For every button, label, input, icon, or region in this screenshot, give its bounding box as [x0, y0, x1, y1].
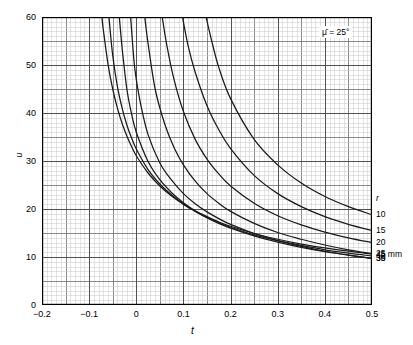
x-tick-label: 0.5 — [355, 310, 389, 319]
y-tick-label: 40 — [10, 109, 36, 118]
x-tick-label: 0.2 — [214, 310, 248, 319]
legend-entry: 10 — [376, 210, 385, 219]
y-tick-label: 50 — [10, 61, 36, 70]
y-axis-label: u — [14, 152, 24, 157]
plot-area — [42, 17, 372, 305]
legend-entry: 15 — [376, 226, 385, 235]
mu-annotation: μ̄ = 25° — [319, 26, 352, 38]
y-tick-label: 10 — [10, 253, 36, 262]
x-tick-label: −0.1 — [72, 310, 106, 319]
curve-20 — [162, 17, 372, 243]
curve-10 — [206, 17, 372, 215]
x-tick-label: −0.2 — [25, 310, 59, 319]
curve-35 — [119, 17, 372, 258]
y-tick-label: 60 — [10, 13, 36, 22]
x-axis-label: t — [191, 325, 194, 336]
legend-entry: 25 — [376, 249, 385, 258]
x-tick-label: 0.4 — [308, 310, 342, 319]
x-tick-label: 0.1 — [166, 310, 200, 319]
x-tick-label: 0.3 — [261, 310, 295, 319]
x-tick-label: 0 — [119, 310, 153, 319]
curve-25 — [145, 17, 372, 254]
y-tick-label: 0 — [10, 301, 36, 310]
curves-layer — [42, 17, 372, 305]
y-tick-label: 30 — [10, 157, 36, 166]
y-tick-label: 20 — [10, 205, 36, 214]
curve-15 — [182, 17, 372, 231]
chart-figure: 0102030405060 −0.2−0.100.10.20.30.40.5 u… — [0, 0, 413, 345]
legend-title: r — [376, 193, 379, 203]
legend-entry: 20 — [376, 238, 385, 247]
